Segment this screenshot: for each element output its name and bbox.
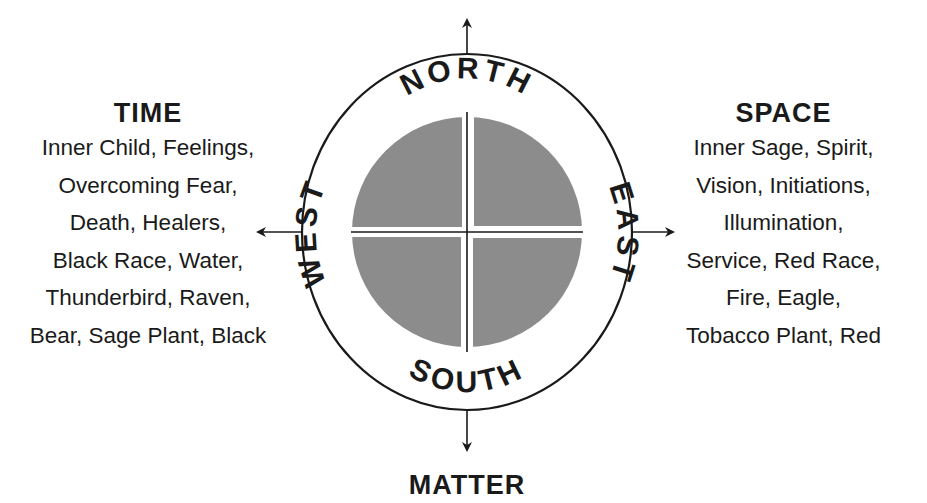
- space-title: SPACE: [640, 97, 927, 129]
- matter-title: MATTER: [367, 470, 567, 501]
- south-label: SOUTH: [405, 351, 530, 398]
- space-line: Fire, Eagle,: [640, 279, 927, 317]
- space-line: Tobacco Plant, Red: [640, 317, 927, 355]
- time-line: Inner Child, Feelings,: [0, 129, 296, 167]
- inner-disc: [340, 110, 596, 362]
- time-block: TIME Inner Child, Feelings, Overcoming F…: [0, 97, 296, 354]
- quadrant-sw: [340, 237, 461, 362]
- time-line: Bear, Sage Plant, Black: [0, 317, 296, 355]
- space-line: Service, Red Race,: [640, 242, 927, 280]
- time-title: TIME: [0, 97, 296, 129]
- space-block: SPACE Inner Sage, Spirit, Vision, Initia…: [640, 97, 927, 354]
- time-line: Overcoming Fear,: [0, 167, 296, 205]
- space-line: Illumination,: [640, 204, 927, 242]
- time-line: Thunderbird, Raven,: [0, 279, 296, 317]
- space-line: Vision, Initiations,: [640, 167, 927, 205]
- north-label: NORTH: [395, 51, 540, 101]
- space-line: Inner Sage, Spirit,: [640, 129, 927, 167]
- time-line: Death, Healers,: [0, 204, 296, 242]
- quadrant-nw: [340, 110, 462, 227]
- quadrant-se: [473, 238, 596, 362]
- time-line: Black Race, Water,: [0, 242, 296, 280]
- quadrant-ne: [474, 110, 596, 226]
